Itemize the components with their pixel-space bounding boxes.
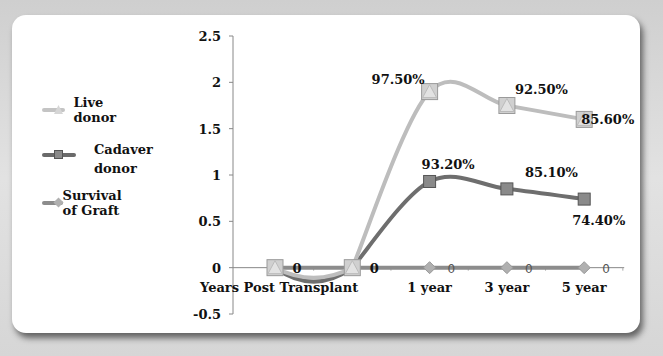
y-tick-label: 0 (212, 261, 221, 276)
legend-label: Survival of Graft (63, 188, 136, 218)
y-tick-label: 1 (212, 168, 221, 183)
y-tick-label: 2 (212, 75, 221, 90)
series-group (267, 82, 592, 282)
legend-swatch-survival (42, 196, 63, 210)
data-label-cadaver-donor: 0 (370, 261, 379, 276)
x-tick-label: 1 year (407, 280, 452, 295)
diamond-marker-icon (53, 197, 63, 207)
data-point-survival (578, 262, 590, 274)
data-label-live-donor: 92.50% (515, 82, 569, 97)
data-label-cadaver-donor: 85.10% (525, 165, 579, 180)
data-point-cadaver-donor (578, 193, 590, 205)
x-tick-label: Years Post Transplant (199, 280, 358, 295)
data-label-survival: 0 (448, 262, 456, 276)
legend-item-live-donor[interactable]: Live donor (42, 95, 127, 125)
x-tick-label: 5 year (562, 280, 607, 295)
data-label-cadaver-donor: 0 (292, 261, 301, 276)
data-label-survival: 0 (525, 262, 533, 276)
line-chart: 2.521.510.50-0.5Years Post Transplant1 y… (0, 0, 663, 356)
data-point-cadaver-donor (501, 183, 513, 195)
data-point-survival (424, 262, 436, 274)
legend-item-cadaver-donor[interactable]: Cadaver donor (42, 140, 174, 178)
data-label-cadaver-donor: 93.20% (422, 157, 476, 172)
y-tick-label: 1.5 (198, 122, 221, 137)
legend-swatch-live-donor (42, 103, 65, 117)
data-label-survival: 0 (602, 262, 610, 276)
y-tick-label: 0.5 (198, 214, 221, 229)
legend-swatch-cadaver-donor (42, 148, 76, 162)
data-label-live-donor: 85.60% (581, 112, 635, 127)
data-point-survival (501, 262, 513, 274)
data-point-cadaver-donor (424, 175, 436, 187)
square-marker-icon (54, 150, 63, 159)
x-tick-label: 3 year (485, 280, 530, 295)
labels-group: 97.50%92.50%85.60%0093.20%85.10%74.40%00… (292, 72, 634, 276)
data-label-cadaver-donor: 74.40% (572, 213, 626, 228)
legend-label: Cadaver donor (94, 140, 174, 178)
legend-item-survival-of-graft[interactable]: Survival of Graft (42, 188, 135, 218)
data-label-live-donor: 97.50% (372, 72, 426, 87)
legend-label: Live donor (73, 95, 126, 125)
y-tick-label: 2.5 (198, 29, 221, 44)
y-tick-label: -0.5 (193, 307, 221, 322)
